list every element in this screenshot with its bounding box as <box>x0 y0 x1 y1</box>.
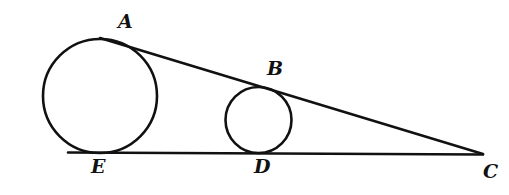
small-circle <box>226 87 292 153</box>
vertex-label-c: C <box>483 162 498 181</box>
vertex-label-e: E <box>91 157 105 176</box>
lower-tangent-line <box>68 153 483 155</box>
vertex-label-b: B <box>267 59 283 78</box>
large-circle <box>43 39 157 153</box>
vertex-label-d: D <box>254 157 270 176</box>
vertex-label-a: A <box>118 12 133 31</box>
geometry-diagram: A B C D E <box>0 0 509 195</box>
